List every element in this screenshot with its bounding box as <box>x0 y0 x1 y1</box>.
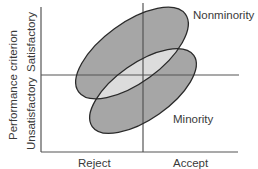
y-label-unsatisfactory: Unsatisfactory <box>25 77 37 150</box>
y-label-satisfactory: Satisfactory <box>25 12 37 72</box>
minority-label: Minority <box>173 113 214 125</box>
x-label-reject: Reject <box>78 157 111 169</box>
selection-diagram: Nonminority Minority Reject Accept Satis… <box>0 0 258 169</box>
nonminority-label: Nonminority <box>193 9 255 21</box>
y-axis-title: Performance criterion <box>7 30 19 140</box>
x-label-accept: Accept <box>173 157 209 169</box>
